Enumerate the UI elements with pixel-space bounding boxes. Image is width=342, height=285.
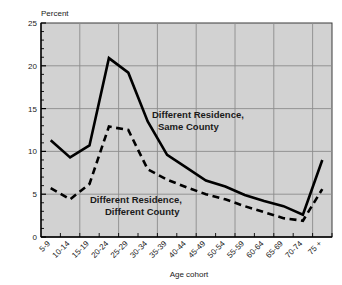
y-tick-label: 15 — [28, 105, 37, 114]
annotation-same-county-line2: Same County — [158, 121, 219, 132]
line-chart-svg: 0510152025 5-910-1415-1920-2425-2930-343… — [0, 0, 342, 285]
y-tick-label: 10 — [28, 147, 37, 156]
x-axis-title: Age cohort — [170, 270, 209, 279]
y-axis-title: Percent — [41, 9, 69, 18]
y-tick-label: 0 — [33, 233, 38, 242]
y-tick-label: 25 — [28, 19, 37, 28]
annotation-different-county-line2: Different County — [105, 206, 180, 217]
chart-container: 0510152025 5-910-1415-1920-2425-2930-343… — [0, 0, 342, 285]
annotation-same-county-line1: Different Residence, — [152, 109, 244, 120]
y-tick-label: 20 — [28, 62, 37, 71]
annotation-different-county-line1: Different Residence, — [90, 194, 182, 205]
y-tick-label: 5 — [33, 190, 38, 199]
chart-canvas: 0510152025 5-910-1415-1920-2425-2930-343… — [0, 0, 342, 285]
